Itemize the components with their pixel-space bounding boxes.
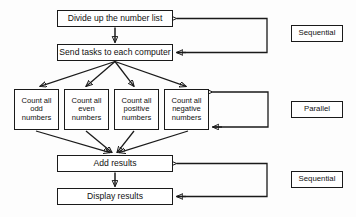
node-display-results[interactable]: Display results: [57, 188, 173, 205]
node-divide-up-number-list[interactable]: Divide up the number list: [57, 10, 173, 27]
node-count-all-even-numbers[interactable]: Count all even numbers: [64, 89, 109, 130]
bracket-sequential-top: [177, 19, 268, 53]
label-parallel: Parallel: [291, 101, 343, 118]
fanin-arrows: [36, 131, 188, 153]
node-count-all-positive-numbers[interactable]: Count all positive numbers: [114, 89, 159, 130]
label-sequential-top: Sequential: [291, 25, 343, 42]
node-count-all-negative-numbers[interactable]: Count all negative numbers: [164, 89, 209, 130]
label-sequential-bottom: Sequential: [291, 171, 343, 188]
fanout-arrows: [40, 62, 186, 87]
bracket-sequential-bottom: [177, 164, 268, 197]
flowchart-canvas: Divide up the number list Send tasks to …: [0, 0, 356, 217]
node-count-all-odd-numbers[interactable]: Count all odd numbers: [14, 89, 59, 130]
bracket-parallel: [213, 92, 269, 127]
node-add-results[interactable]: Add results: [57, 155, 173, 172]
node-send-tasks-to-each-computer[interactable]: Send tasks to each computer: [57, 44, 173, 61]
